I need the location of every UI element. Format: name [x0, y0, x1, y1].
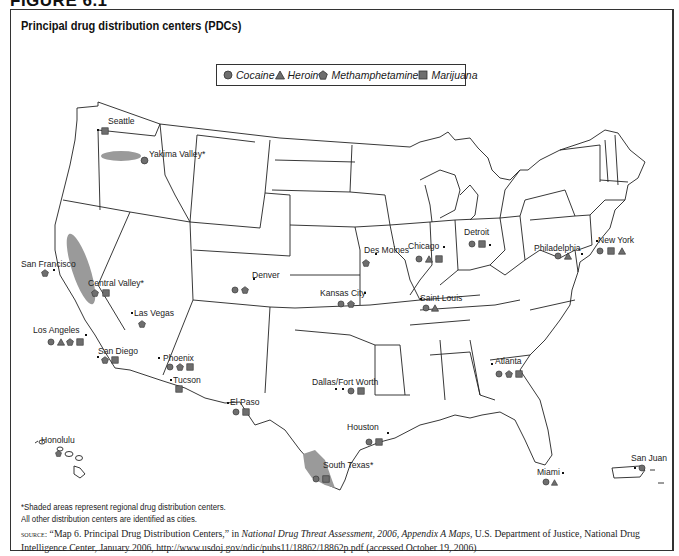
marijuana-marker	[176, 386, 182, 392]
legend-item-methamphetamine: Methamphetamine	[318, 69, 418, 81]
legend-item-heroin: Heroin	[275, 69, 319, 81]
regional-shaded-areas	[61, 151, 335, 488]
cocaine-marker	[313, 476, 319, 482]
triangle-marker-icon	[275, 70, 285, 80]
heroin-marker	[564, 253, 571, 259]
city-label-tucson: Tucson	[173, 374, 201, 385]
source-prefix: source:	[21, 529, 47, 539]
legend-label: Marijuana	[431, 69, 477, 81]
legend-item-cocaine: Cocaine	[223, 69, 275, 81]
cocaine-marker	[543, 479, 549, 485]
heroin-marker	[551, 480, 557, 486]
hawaii-islands	[35, 440, 85, 478]
source-text-a: “Map 6. Principal Drug Distribution Cent…	[47, 528, 241, 539]
methamphetamine-marker	[67, 339, 74, 346]
cocaine-marker	[348, 388, 354, 394]
city-label-dallas-fort-worth: Dallas/Fort Worth	[312, 376, 378, 387]
cocaine-marker	[48, 339, 54, 345]
marijuana-marker	[102, 128, 108, 134]
marijuana-marker	[77, 339, 83, 345]
marijuana-marker	[112, 357, 118, 363]
city-label-central-valley: Central Valley*	[88, 277, 144, 288]
cocaine-marker	[555, 253, 561, 259]
city-label-los-angeles: Los Angeles	[33, 324, 80, 335]
marijuana-marker	[358, 388, 364, 394]
figure-title: Principal drug distribution centers (PDC…	[21, 18, 241, 33]
methamphetamine-marker	[177, 364, 184, 371]
heroin-marker	[618, 248, 625, 254]
legend-label: Cocaine	[236, 69, 275, 81]
city-label-miami: Miami	[537, 466, 560, 477]
marijuana-marker	[376, 439, 382, 445]
legend-label: Heroin	[288, 69, 319, 81]
methamphetamine-marker	[102, 357, 109, 364]
city-label-san-francisco: San Francisco	[21, 258, 76, 269]
marijuana-marker	[243, 409, 249, 415]
city-label-denver: Denver	[252, 269, 280, 280]
methamphetamine-marker	[242, 287, 249, 294]
marijuana-marker	[436, 256, 442, 262]
heroin-marker	[431, 305, 438, 311]
city-label-honolulu: Honolulu	[41, 434, 75, 445]
city-label-yakima-valley: Yakima Valley*	[149, 148, 205, 159]
methamphetamine-marker	[348, 301, 355, 308]
marijuana-marker	[516, 371, 522, 377]
cocaine-marker	[639, 465, 645, 471]
pentagon-marker-icon	[318, 70, 328, 80]
source-citation: source: “Map 6. Principal Drug Distribut…	[21, 527, 671, 554]
cocaine-marker	[233, 409, 239, 415]
drug-markers	[42, 128, 645, 486]
city-label-chicago: Chicago	[408, 240, 439, 251]
marijuana-marker	[323, 476, 329, 482]
puerto-rico	[612, 466, 664, 483]
cocaine-marker	[416, 256, 422, 262]
city-label-san-diego: San Diego	[98, 345, 138, 356]
heroin-marker	[57, 339, 64, 345]
methamphetamine-marker	[506, 371, 513, 378]
circle-marker-icon	[223, 70, 233, 80]
city-label-south-texas: South Texas*	[323, 459, 373, 470]
city-label-saint-louis: Saint Louis	[420, 292, 462, 303]
city-label-houston: Houston	[347, 421, 379, 432]
cocaine-marker	[338, 301, 344, 307]
city-label-las-vegas: Las Vegas	[134, 307, 174, 318]
city-label-kansas-city: Kansas City	[320, 287, 366, 298]
map-legend: Cocaine Heroin Methamphetamine Marijuana	[216, 64, 466, 86]
cocaine-marker	[232, 287, 238, 293]
methamphetamine-marker	[55, 451, 61, 457]
cocaine-marker	[469, 241, 475, 247]
marijuana-marker	[103, 290, 109, 296]
marijuana-marker	[187, 364, 193, 370]
legend-item-marijuana: Marijuana	[418, 69, 477, 81]
cocaine-marker	[423, 305, 429, 311]
city-label-phoenix: Phoenix	[163, 352, 194, 363]
cocaine-marker	[496, 371, 502, 377]
city-label-san-juan: San Juan	[631, 452, 667, 463]
marijuana-marker	[608, 248, 614, 254]
square-marker-icon	[418, 70, 428, 80]
source-publication-title: National Drug Threat Assessment, 2006, A…	[241, 528, 469, 539]
legend-label: Methamphetamine	[331, 69, 418, 81]
city-dots	[53, 129, 636, 474]
shaded-yakima-valley	[101, 151, 141, 161]
city-label-seattle: Seattle	[108, 115, 135, 126]
methamphetamine-marker	[42, 270, 49, 277]
footnote: *Shaded areas represent regional drug di…	[21, 501, 226, 525]
methamphetamine-marker	[363, 260, 370, 267]
city-label-el-paso: El Paso	[230, 396, 259, 407]
methamphetamine-marker	[139, 321, 146, 328]
marijuana-marker	[479, 241, 485, 247]
city-label-atlanta: Atlanta	[495, 355, 522, 366]
cocaine-marker	[597, 248, 603, 254]
city-label-new-york: New York	[598, 234, 634, 245]
cocaine-marker	[141, 157, 148, 164]
city-label-des-moines: Des Moines	[364, 244, 409, 255]
footnote-line-1: *Shaded areas represent regional drug di…	[21, 501, 226, 513]
city-label-detroit: Detroit	[464, 226, 489, 237]
cocaine-marker	[366, 439, 372, 445]
city-label-philadelphia: Philadelphia	[534, 242, 581, 253]
cocaine-marker	[167, 364, 173, 370]
footnote-line-2: All other distribution centers are ident…	[21, 513, 226, 525]
